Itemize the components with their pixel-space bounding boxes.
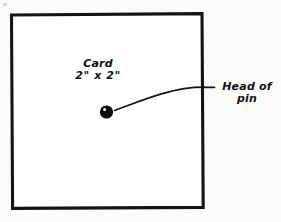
card-label-line1: Card (56, 58, 140, 70)
pin-head-dot (100, 105, 113, 118)
scan-speck (3, 3, 7, 6)
card-label-line2: 2" x 2" (56, 70, 140, 82)
diagram-canvas (0, 0, 281, 222)
pin-label: Head of pin (216, 81, 278, 104)
pin-head-highlight (103, 108, 106, 111)
figure-root: Card 2" x 2" Head of pin (0, 0, 281, 222)
pin-label-line2: pin (216, 93, 278, 105)
card-label: Card 2" x 2" (56, 58, 140, 81)
pin-label-line1: Head of (216, 81, 278, 93)
